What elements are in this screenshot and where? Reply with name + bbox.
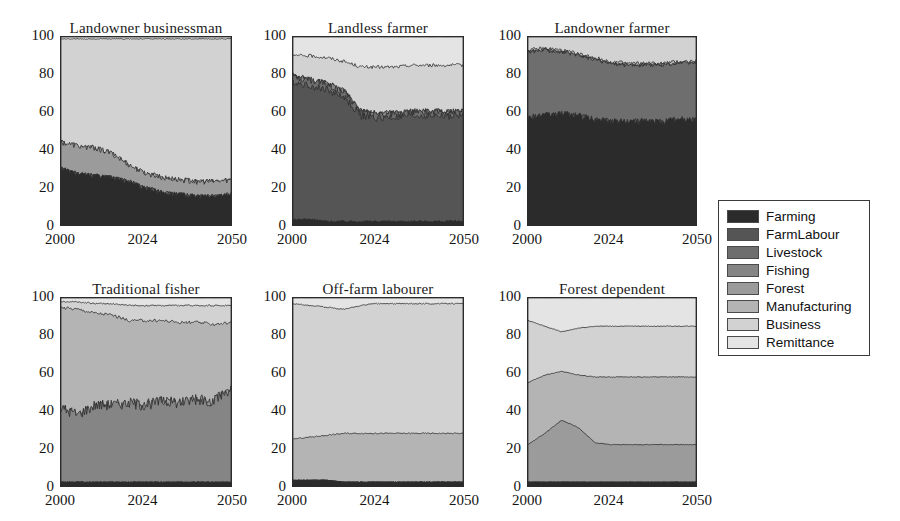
legend-item[interactable]: Business: [727, 317, 821, 332]
y-axis-tick-label: 80: [481, 326, 521, 343]
y-axis-tick-label: 20: [481, 440, 521, 457]
y-axis-tick-label: 60: [481, 364, 521, 381]
x-axis-tick-label: 2000: [502, 492, 552, 509]
legend-swatch-icon: [727, 228, 759, 241]
legend-item[interactable]: Farming: [727, 209, 816, 224]
legend-swatch-icon: [727, 210, 759, 223]
legend-item-label: Remittance: [766, 336, 834, 350]
legend-item-label: Farming: [766, 210, 816, 224]
x-axis-tick-label: 2024: [584, 492, 634, 509]
legend-item-label: Manufacturing: [766, 300, 852, 314]
plot-area: [527, 297, 697, 487]
legend-item-label: FarmLabour: [766, 228, 840, 242]
y-axis-tick-label: 100: [481, 288, 521, 305]
legend-item-label: Business: [766, 318, 821, 332]
legend-swatch-icon: [727, 282, 759, 295]
legend-item[interactable]: Fishing: [727, 263, 810, 278]
legend-swatch-icon: [727, 318, 759, 331]
figure-canvas: Landowner businessman0204060801002000202…: [0, 0, 900, 521]
legend-swatch-icon: [727, 336, 759, 349]
legend-item[interactable]: Forest: [727, 281, 804, 296]
legend-item[interactable]: FarmLabour: [727, 227, 840, 242]
legend-item[interactable]: Livestock: [727, 245, 822, 260]
legend-item[interactable]: Manufacturing: [727, 299, 852, 314]
legend-swatch-icon: [727, 264, 759, 277]
legend-swatch-icon: [727, 246, 759, 259]
panel-title: Forest dependent: [502, 281, 722, 298]
legend-swatch-icon: [727, 300, 759, 313]
legend-item-label: Livestock: [766, 246, 822, 260]
legend-item-label: Fishing: [766, 264, 810, 278]
legend-item-label: Forest: [766, 282, 804, 296]
legend: FarmingFarmLabourLivestockFishingForestM…: [718, 200, 870, 356]
x-axis-tick-label: 2050: [672, 492, 722, 509]
y-axis-tick-label: 40: [481, 402, 521, 419]
legend-item[interactable]: Remittance: [727, 335, 834, 350]
